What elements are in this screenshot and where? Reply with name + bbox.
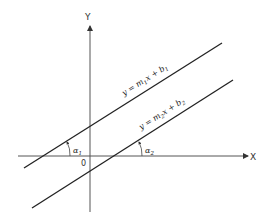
angle-label-alpha-2: α2 [145, 146, 154, 156]
angle-arc-alpha-1 [67, 142, 70, 156]
y-axis-label: Y [84, 12, 91, 22]
diagram-canvas: X Y 0 y = m1x + b1 y = m2x + b2 α1 α2 [0, 0, 265, 217]
origin-label: 0 [81, 159, 86, 168]
angle-label-alpha-1: α1 [73, 146, 82, 156]
svg-text:α1: α1 [73, 146, 82, 156]
svg-text:α2: α2 [145, 146, 154, 156]
angle-arc-alpha-2 [139, 142, 142, 156]
x-axis-label: X [250, 152, 256, 162]
